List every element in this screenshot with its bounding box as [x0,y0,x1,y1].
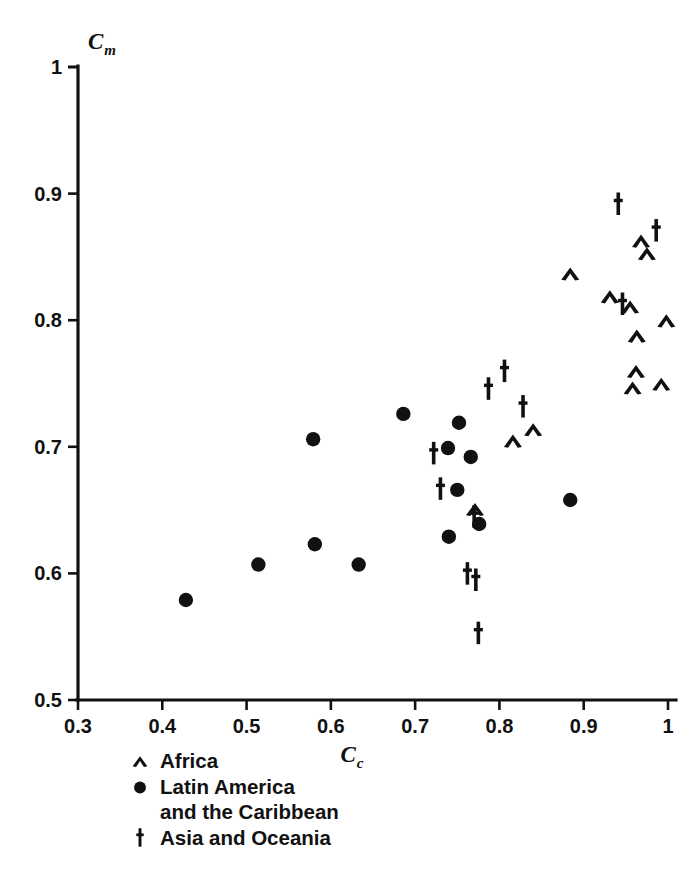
legend: AfricaLatin Americaand the CaribbeanAsia… [133,749,339,849]
axis-tick-labels: 0.50.60.70.80.910.30.40.50.60.70.80.91 [34,56,673,737]
data-point [452,416,466,430]
data-point [471,568,480,591]
data-point [563,493,577,507]
data-point [524,423,542,436]
data-points [179,192,676,644]
figure-canvas: 0.50.60.70.80.910.30.40.50.60.70.80.91 C… [0,0,695,887]
data-point [601,290,619,303]
data-point [464,450,478,464]
legend-marker-dagger [136,828,143,846]
data-point [463,562,472,585]
data-point [657,314,675,327]
data-point [442,529,456,543]
data-point [351,557,365,571]
y-axis-title: Cm [88,29,116,58]
data-point [441,441,455,455]
data-point [474,622,483,645]
x-axis-title: Cc [340,742,363,771]
data-point [396,407,410,421]
x-tick-label: 0.6 [317,715,345,737]
legend-marker-circle [134,782,146,794]
x-axis-title-subscript: c [357,755,364,771]
axis-ticks [68,67,668,710]
y-tick-label: 0.7 [34,436,62,458]
data-point [652,219,661,242]
x-tick-label: 1 [662,715,673,737]
data-point [628,330,646,343]
legend-item: Asia and Oceania [136,826,331,849]
x-tick-label: 0.8 [486,715,514,737]
data-point [652,378,670,391]
legend-item: Africa [133,749,219,772]
data-point [450,483,464,497]
x-tick-label: 0.4 [148,715,177,737]
data-point [624,381,642,394]
x-tick-label: 0.9 [570,715,598,737]
data-point [429,442,438,465]
data-point [638,247,656,260]
series-africa [466,235,675,517]
data-point [251,557,265,571]
y-tick-label: 0.8 [34,309,62,331]
data-point [308,537,322,551]
data-point [627,365,645,378]
y-tick-label: 0.9 [34,183,62,205]
y-tick-label: 0.6 [34,562,62,584]
legend-item: Latin America [134,775,295,798]
data-point [306,432,320,446]
legend-marker-chevron [133,756,148,767]
y-tick-label: 1 [51,56,62,78]
x-tick-label: 0.7 [401,715,429,737]
data-point [179,593,193,607]
data-point [614,192,623,215]
data-point [519,395,528,418]
legend-label: and the Caribbean [160,800,339,823]
scatter-plot: 0.50.60.70.80.910.30.40.50.60.70.80.91 C… [0,0,695,887]
legend-label: Africa [160,749,219,772]
x-tick-label: 0.3 [64,715,92,737]
series-latin-america-and-the-caribbean [179,407,578,608]
axes [77,66,676,700]
y-tick-label: 0.5 [34,689,62,711]
data-point [561,267,579,280]
data-point [632,235,650,248]
data-point [484,377,493,400]
data-point [504,435,522,448]
x-tick-label: 0.5 [233,715,261,737]
legend-item: and the Caribbean [160,800,339,823]
legend-label: Asia and Oceania [160,826,332,849]
legend-label: Latin America [160,775,295,798]
y-axis-title-subscript: m [104,42,116,58]
data-point [500,360,509,383]
axis-titles: CmCc [88,29,364,771]
data-point [436,477,445,500]
